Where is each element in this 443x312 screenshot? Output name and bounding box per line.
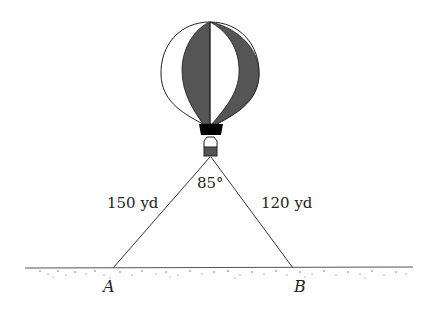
diagram-graphic [0, 0, 443, 312]
point-a-label: A [103, 277, 115, 296]
ground-texture [39, 270, 406, 278]
angle-label: 85° [197, 174, 224, 192]
side-left-line [113, 157, 210, 268]
gondola [204, 137, 217, 156]
ground-line [25, 267, 413, 268]
balloon-envelope [161, 22, 259, 124]
balloon-triangle-diagram: 85° 150 yd 120 yd A B [0, 0, 443, 312]
side-left-label: 150 yd [107, 194, 158, 212]
point-b-label: B [294, 277, 306, 296]
side-right-label: 120 yd [261, 194, 312, 212]
balloon-collar [199, 124, 223, 135]
